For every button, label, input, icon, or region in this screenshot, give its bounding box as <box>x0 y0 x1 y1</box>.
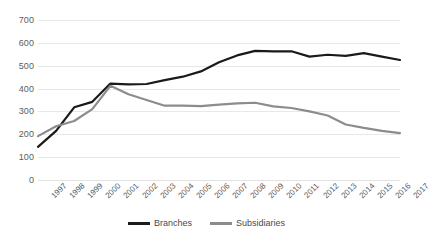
x-tick-label-2012: 2012 <box>322 182 340 200</box>
y-tick-label-500: 500 <box>4 62 34 71</box>
y-tick-label-400: 400 <box>4 85 34 94</box>
legend-label: Branches <box>154 219 192 228</box>
x-tick-label-1999: 1999 <box>86 182 104 200</box>
x-tick-label-2016: 2016 <box>394 182 412 200</box>
x-tick-label-2013: 2013 <box>340 182 358 200</box>
legend-item-subsidiaries[interactable]: Subsidiaries <box>210 219 285 228</box>
legend-item-branches[interactable]: Branches <box>128 219 192 228</box>
gridline-0 <box>38 180 400 181</box>
chart-legend: BranchesSubsidiaries <box>0 219 413 228</box>
x-tick-label-2004: 2004 <box>177 182 195 200</box>
x-axis: 1997199819992000200120022003200420052006… <box>38 182 400 222</box>
x-tick-label-2000: 2000 <box>105 182 123 200</box>
legend-label: Subsidiaries <box>236 219 285 228</box>
x-tick-label-2010: 2010 <box>286 182 304 200</box>
y-tick-label-300: 300 <box>4 107 34 116</box>
x-tick-label-2005: 2005 <box>195 182 213 200</box>
y-tick-label-0: 0 <box>4 176 34 185</box>
x-tick-label-1997: 1997 <box>50 182 68 200</box>
series-lines <box>38 20 400 180</box>
x-tick-label-2007: 2007 <box>231 182 249 200</box>
y-tick-label-700: 700 <box>4 16 34 25</box>
legend-swatch-icon <box>128 222 150 225</box>
x-tick-label-2003: 2003 <box>159 182 177 200</box>
y-tick-label-100: 100 <box>4 153 34 162</box>
x-tick-label-1998: 1998 <box>68 182 86 200</box>
series-line-subsidiaries <box>38 86 400 136</box>
y-tick-label-200: 200 <box>4 130 34 139</box>
x-tick-label-2002: 2002 <box>141 182 159 200</box>
series-line-branches <box>38 51 400 147</box>
y-axis: 7006005004003002001000 <box>0 20 34 180</box>
x-tick-label-2008: 2008 <box>249 182 267 200</box>
x-tick-label-2006: 2006 <box>213 182 231 200</box>
x-tick-label-2017: 2017 <box>412 182 430 200</box>
x-tick-label-2015: 2015 <box>376 182 394 200</box>
legend-swatch-icon <box>210 222 232 225</box>
x-tick-label-2001: 2001 <box>123 182 141 200</box>
plot-area <box>38 20 400 180</box>
y-tick-label-600: 600 <box>4 39 34 48</box>
x-tick-label-2011: 2011 <box>303 182 321 200</box>
x-tick-label-2014: 2014 <box>358 182 376 200</box>
x-tick-label-2009: 2009 <box>267 182 285 200</box>
